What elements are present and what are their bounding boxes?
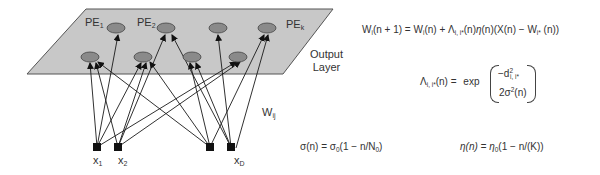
- pe-node-1: [107, 23, 125, 33]
- input-label-x1: x1: [93, 155, 102, 167]
- pe-node-6: [134, 52, 152, 62]
- input-label-x2: x2: [118, 155, 127, 167]
- pe-node-k: [258, 23, 276, 33]
- pe-node-3: [209, 23, 227, 33]
- neighborhood-fraction: −d2i, i* 2σ2(n): [490, 65, 536, 101]
- input-node-x1: [93, 143, 101, 151]
- input-node-x3: [206, 143, 214, 151]
- pe-label-2: PE2: [137, 17, 156, 29]
- pe-node-8: [229, 52, 247, 62]
- pe-label-k: PEk: [286, 19, 304, 31]
- eta-schedule-equation: η(n) = η0(1 − n/(K)): [460, 142, 544, 154]
- sigma-schedule-equation: σ(n) = σ0(1 − n/N0): [300, 142, 382, 154]
- neighborhood-equation: Λi, i*(n) = exp: [420, 77, 479, 89]
- pe-label-1: PE1: [85, 17, 104, 29]
- fraction-numerator: −d2i, i*: [498, 68, 519, 81]
- input-label-xD: xD: [234, 155, 245, 167]
- pe-node-7: [183, 52, 201, 62]
- fraction-denominator: 2σ2(n): [499, 87, 527, 98]
- weights-label: Wij: [262, 107, 276, 119]
- pe-node-2: [157, 23, 175, 33]
- output-layer-label: Output Layer: [310, 48, 343, 74]
- input-node-x2: [114, 143, 122, 151]
- pe-node-5: [81, 52, 99, 62]
- input-node-xD: [227, 143, 235, 151]
- input-nodes: [93, 143, 235, 151]
- weight-update-equation: Wi(n + 1) = Wi(n) + Λi, i*(n)η(n)(X(n) −…: [362, 25, 559, 37]
